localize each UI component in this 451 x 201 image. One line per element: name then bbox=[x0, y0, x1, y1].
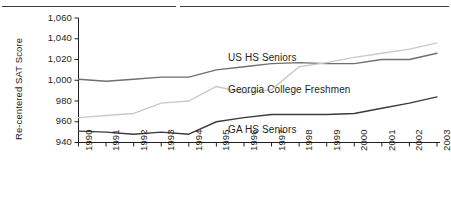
series-label: GA HS Seniors bbox=[228, 124, 297, 135]
x-tick-label: 1992 bbox=[138, 129, 149, 151]
x-tick-label: 1994 bbox=[193, 129, 204, 151]
series-label: US HS Seniors bbox=[228, 52, 297, 63]
figure-container: Re-centered SAT Score 9409609801,0001,02… bbox=[0, 0, 451, 201]
x-tick-label: 1998 bbox=[303, 129, 314, 151]
series-label: Georgia College Freshmen bbox=[228, 84, 350, 95]
x-tick-label: 1990 bbox=[83, 129, 94, 151]
y-tick-label: 1,000 bbox=[18, 74, 72, 85]
y-tick-label: 980 bbox=[18, 95, 72, 106]
y-axis-ticks bbox=[75, 18, 79, 143]
x-tick-label: 1991 bbox=[110, 129, 121, 151]
y-tick-label: 960 bbox=[18, 115, 72, 126]
x-tick-label: 1993 bbox=[165, 129, 176, 151]
y-tick-label: 1,060 bbox=[18, 12, 72, 23]
y-tick-label: 1,020 bbox=[18, 53, 72, 64]
x-tick-label: 2001 bbox=[386, 129, 397, 151]
y-tick-label: 1,040 bbox=[18, 32, 72, 43]
x-tick-label: 2002 bbox=[413, 129, 424, 151]
y-tick-label: 940 bbox=[18, 136, 72, 147]
x-tick-label: 2003 bbox=[441, 129, 451, 151]
x-tick-label: 1999 bbox=[331, 129, 342, 151]
x-tick-label: 2000 bbox=[358, 129, 369, 151]
